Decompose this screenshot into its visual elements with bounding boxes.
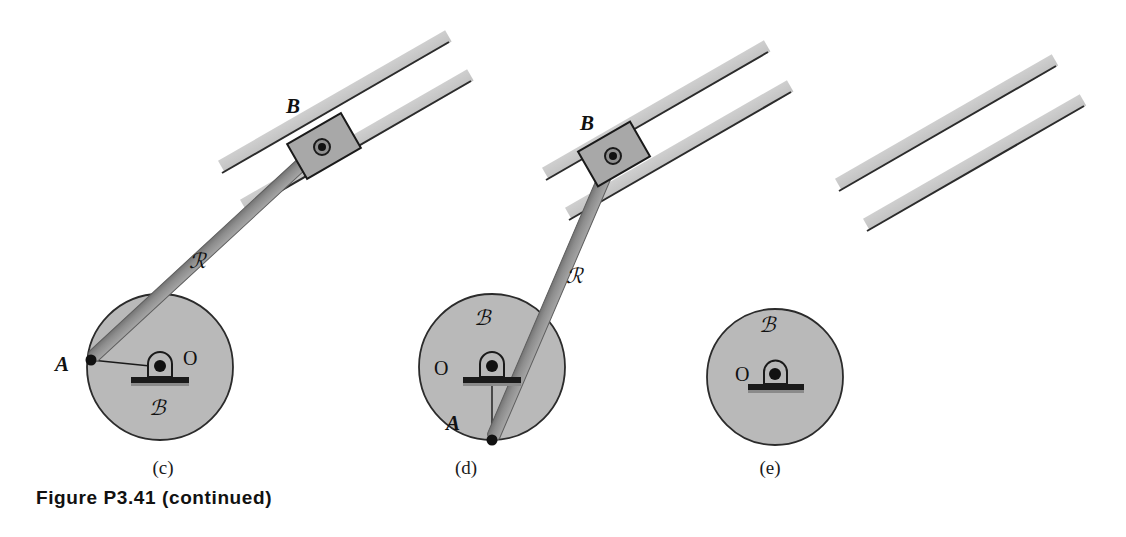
label-rod-r-c: ℛ xyxy=(189,249,207,273)
block-pin xyxy=(609,152,617,160)
label-point-a-d: A xyxy=(444,411,460,435)
panel-label-e: (e) xyxy=(759,457,780,479)
pin-point-a-d xyxy=(487,435,498,446)
block-pin xyxy=(318,143,326,151)
figure-canvas: A O ℬ ℛ B (c) xyxy=(0,0,1126,537)
panel-label-d: (d) xyxy=(455,457,477,479)
label-rod-r-d: ℛ xyxy=(566,264,584,288)
bearing-base-shadow xyxy=(748,390,804,393)
rail-band xyxy=(835,54,1058,190)
figure-caption: Figure P3.41 (continued) xyxy=(36,487,272,509)
label-bearing-o-d: O xyxy=(434,357,448,379)
pin-point-a-c xyxy=(86,355,97,366)
label-bearing-o-e: O xyxy=(735,363,749,385)
guide-rail-upper-e xyxy=(835,54,1058,191)
bearing-base-plate xyxy=(131,377,189,383)
label-slider-b-c: B xyxy=(285,94,300,118)
bearing-base-shadow xyxy=(131,383,189,386)
pivot-pin-o xyxy=(154,360,166,372)
panel-label-c: (c) xyxy=(152,457,173,479)
label-body-b-c: ℬ xyxy=(149,396,167,420)
guide-rail-lower-e xyxy=(863,94,1086,231)
bearing-base-plate xyxy=(748,384,804,390)
label-slider-b-d: B xyxy=(579,111,594,135)
rail-edge-line xyxy=(867,106,1084,231)
pivot-pin-o xyxy=(486,360,498,372)
panel-c: A O ℬ ℛ B (c) xyxy=(53,30,474,479)
bearing-base-shadow xyxy=(463,383,521,386)
panel-e: O ℬ (e) xyxy=(707,54,1086,479)
pivot-pin-o xyxy=(769,368,781,380)
label-bearing-o-c: O xyxy=(183,347,197,369)
guide-rails-e xyxy=(835,54,1086,231)
rail-band xyxy=(863,94,1086,230)
bearing-base-plate xyxy=(463,377,521,383)
label-body-b-d: ℬ xyxy=(474,306,492,330)
figure-container: A O ℬ ℛ B (c) xyxy=(0,0,1126,537)
label-body-b-e: ℬ xyxy=(759,313,777,337)
label-point-a-c: A xyxy=(53,352,69,376)
